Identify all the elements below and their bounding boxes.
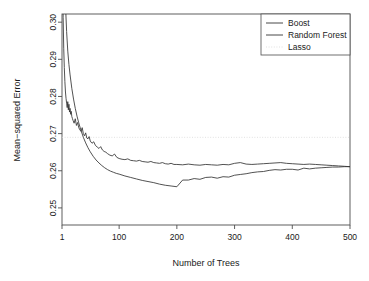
x-tick-label: 500 <box>343 232 357 242</box>
y-tick-label: 0.26 <box>48 162 58 179</box>
y-tick-label: 0.30 <box>48 14 58 31</box>
x-axis-title: Number of Trees <box>172 258 240 268</box>
y-axis-title: Mean−squared Error <box>12 79 22 162</box>
x-tick-label: 400 <box>285 232 299 242</box>
legend-label-random-forest: Random Forest <box>288 30 347 40</box>
x-tick-label: 100 <box>112 232 126 242</box>
x-tick-label: 300 <box>227 232 241 242</box>
y-tick-label: 0.28 <box>48 88 58 105</box>
y-tick-label: 0.27 <box>48 125 58 142</box>
chart-legend: BoostRandom ForestLasso <box>261 14 350 55</box>
y-tick-label: 0.29 <box>48 51 58 68</box>
legend-label-boost: Boost <box>288 18 310 28</box>
x-tick-label: 200 <box>170 232 184 242</box>
x-tick-label: 1 <box>60 232 65 242</box>
y-tick-label: 0.25 <box>48 199 58 216</box>
mse-vs-trees-line-chart: 0.250.260.270.280.290.30 110020030040050… <box>0 0 369 281</box>
legend-label-lasso: Lasso <box>288 42 311 52</box>
chart-container: 0.250.260.270.280.290.30 110020030040050… <box>0 0 369 281</box>
